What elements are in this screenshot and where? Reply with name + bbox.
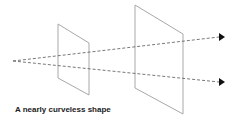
upper-ray xyxy=(13,37,219,61)
lower-arrowhead-icon xyxy=(219,78,225,86)
far-plane xyxy=(135,5,183,114)
near-plane xyxy=(58,24,89,95)
lower-ray xyxy=(13,61,219,82)
diagram-caption: A nearly curveless shape xyxy=(15,105,111,114)
upper-arrowhead-icon xyxy=(219,33,225,41)
